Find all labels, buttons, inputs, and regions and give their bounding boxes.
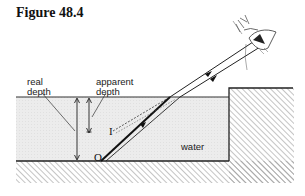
apparent-depth-label-line2: depth [96, 87, 134, 97]
image-point-label: I [109, 125, 113, 137]
figure-title: Figure 48.4 [16, 5, 83, 21]
real-depth-label: real depth [27, 77, 51, 97]
eye-icon [233, 15, 276, 70]
real-depth-label-line2: depth [27, 87, 51, 97]
bank-hatch [229, 88, 294, 183]
apparent-depth-label: apparent depth [96, 77, 134, 97]
refraction-diagram [0, 0, 305, 196]
water-label: water [181, 142, 204, 152]
object-point-label: O [94, 151, 102, 163]
